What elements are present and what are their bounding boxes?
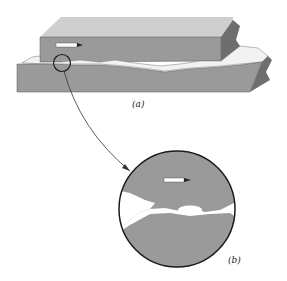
panel-a-label: (a) [132,99,144,109]
friction-diagram [0,0,287,281]
magnified-view [115,150,240,270]
upper-block [40,17,244,62]
panel-b-label: (b) [228,255,241,265]
